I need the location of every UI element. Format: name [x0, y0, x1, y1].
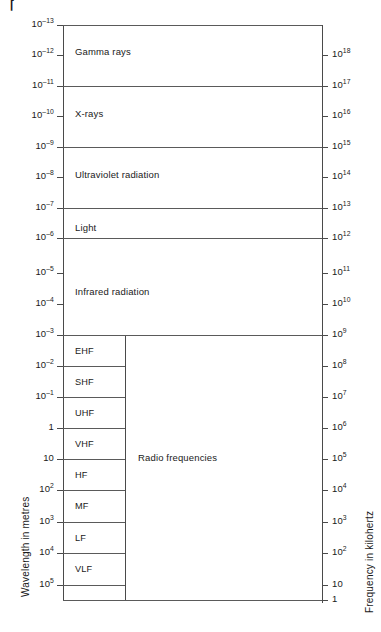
- right-axis-tick-label: 1010: [332, 298, 351, 308]
- left-axis-tick-label: 10–13: [0, 19, 54, 29]
- radio-subband-divider-line: [63, 335, 125, 336]
- right-axis-tick-label: 1011: [332, 267, 350, 277]
- right-axis-tick-mark: [322, 366, 328, 367]
- radio-subband-label-vhf: VHF: [75, 439, 94, 449]
- right-axis-tick-label: 102: [332, 547, 347, 557]
- electromagnetic-spectrum-diagram: 10–1310–1210–1110–1010–910–810–710–610–5…: [0, 0, 381, 632]
- left-axis-tick-mark: [57, 55, 63, 56]
- left-axis-tick-label: 10–9: [0, 141, 54, 151]
- left-axis-tick-label: 10–4: [0, 298, 54, 308]
- radio-subband-label-lf: LF: [75, 533, 86, 543]
- radio-subband-divider-line: [63, 397, 125, 398]
- right-axis-tick-label: 106: [332, 422, 347, 432]
- left-axis-tick-label: 1: [0, 422, 54, 432]
- left-axis-tick-label: 10: [0, 453, 54, 463]
- left-axis-tick-mark: [57, 273, 63, 274]
- left-axis-tick-label: 10–10: [0, 110, 54, 120]
- right-axis-tick-mark: [322, 585, 328, 586]
- page-corner-mark: ⌈: [10, 0, 15, 12]
- right-axis-tick-mark: [322, 304, 328, 305]
- left-axis-line: [63, 25, 64, 600]
- right-axis-tick-label: 1015: [332, 141, 351, 151]
- radio-subband-label-hf: HF: [75, 470, 88, 480]
- radio-subband-label-shf: SHF: [75, 377, 94, 387]
- right-axis-tick-label: 1012: [332, 232, 351, 242]
- band-label-light: Light: [75, 222, 96, 233]
- right-axis-tick-mark: [322, 335, 328, 336]
- left-axis-tick-label: 10–12: [0, 49, 54, 59]
- right-axis-tick-label: 1018: [332, 49, 351, 59]
- left-axis-tick-label: 102: [0, 484, 54, 494]
- left-axis-tick-label: 10–3: [0, 329, 54, 339]
- radio-subband-divider-line: [63, 459, 125, 460]
- band-divider-line: [63, 238, 322, 239]
- right-axis-tick-mark: [322, 522, 328, 523]
- radio-subband-divider-line: [125, 335, 126, 600]
- radio-subband-divider-line: [63, 553, 125, 554]
- right-axis-tick-label: 1013: [332, 202, 351, 212]
- left-axis-tick-label: 10–5: [0, 267, 54, 277]
- right-axis-tick-mark: [322, 428, 328, 429]
- band-divider-line: [63, 86, 322, 87]
- left-axis-tick-label: 10–1: [0, 391, 54, 401]
- right-axis-tick-label: 109: [332, 329, 347, 339]
- right-axis-tick-label: 1016: [332, 110, 351, 120]
- right-axis-tick-mark: [322, 208, 328, 209]
- band-divider-line: [63, 25, 322, 26]
- right-axis-tick-mark: [322, 553, 328, 554]
- right-axis-tick-label: 1: [332, 594, 337, 604]
- right-axis-tick-mark: [322, 55, 328, 56]
- right-axis-tick-mark: [322, 238, 328, 239]
- radio-subband-divider-line: [63, 428, 125, 429]
- left-axis-tick-mark: [57, 304, 63, 305]
- left-axis-tick-label: 10–2: [0, 360, 54, 370]
- radio-subband-label-uhf: UHF: [75, 408, 94, 418]
- left-axis-tick-mark: [57, 116, 63, 117]
- left-axis-tick-label: 10–6: [0, 232, 54, 242]
- right-axis-tick-mark: [322, 86, 328, 87]
- left-axis-tick-label: 10–7: [0, 202, 54, 212]
- right-axis-tick-label: 107: [332, 391, 347, 401]
- right-axis-tick-label: 108: [332, 360, 347, 370]
- band-label-infrared-radiation: Infrared radiation: [75, 286, 150, 297]
- left-axis-tick-label: 10–11: [0, 80, 54, 90]
- right-axis-tick-mark: [322, 177, 328, 178]
- radio-subband-label-ehf: EHF: [75, 346, 94, 356]
- right-axis-tick-mark: [322, 147, 328, 148]
- radio-subband-divider-line: [63, 366, 125, 367]
- right-axis-tick-mark: [322, 490, 328, 491]
- right-axis-line: [322, 25, 323, 603]
- right-axis-tick-mark: [322, 600, 328, 601]
- radio-subband-label-mf: MF: [75, 501, 89, 511]
- right-axis-tick-label: 10: [332, 579, 343, 589]
- right-axis-tick-mark: [322, 273, 328, 274]
- band-divider-line: [63, 147, 322, 148]
- right-axis-tick-label: 105: [332, 453, 347, 463]
- right-axis-title: Frequency in kilohertz: [364, 511, 375, 613]
- radio-subband-divider-line: [63, 490, 125, 491]
- left-axis-tick-label: 10–8: [0, 171, 54, 181]
- right-axis-tick-label: 104: [332, 484, 347, 494]
- right-axis-tick-mark: [322, 116, 328, 117]
- right-axis-tick-mark: [322, 397, 328, 398]
- band-divider-line: [63, 600, 322, 601]
- band-label-gamma-rays: Gamma rays: [75, 46, 131, 57]
- left-axis-tick-mark: [57, 177, 63, 178]
- band-divider-line: [63, 208, 322, 209]
- radio-subband-label-vlf: VLF: [75, 564, 92, 574]
- radio-subband-divider-line: [63, 522, 125, 523]
- band-label-ultraviolet-radiation: Ultraviolet radiation: [75, 169, 159, 180]
- right-axis-tick-mark: [322, 459, 328, 460]
- right-axis-tick-label: 103: [332, 516, 347, 526]
- radio-frequencies-label: Radio frequencies: [138, 452, 217, 463]
- band-label-x-rays: X-rays: [75, 108, 103, 119]
- left-axis-title: Wavelength in metres: [20, 497, 31, 597]
- right-axis-tick-label: 1014: [332, 171, 351, 181]
- radio-subband-divider-line: [63, 585, 125, 586]
- right-axis-tick-label: 1017: [332, 80, 351, 90]
